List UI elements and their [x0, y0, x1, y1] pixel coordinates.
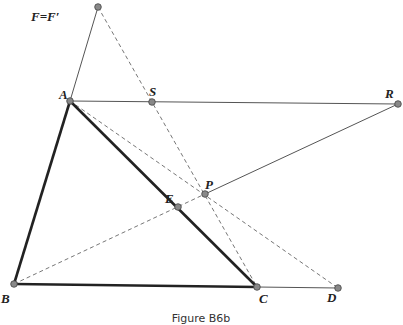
point-R	[395, 101, 402, 108]
point-A	[67, 98, 74, 105]
segment-FC-dashed	[98, 7, 257, 287]
point-C	[254, 284, 261, 291]
segment-AC-thick	[70, 101, 257, 287]
figure-caption: Figure B6b	[172, 312, 231, 325]
segment-AB-thick	[14, 101, 70, 284]
point-label-E: E	[164, 191, 174, 206]
point-label-C: C	[259, 291, 268, 306]
point-label-A: A	[58, 87, 68, 102]
geometry-figure: F=F′ASRPEBCDFigure B6b	[0, 0, 403, 325]
segment-FA-solid	[70, 7, 98, 101]
segment-CD-solid	[257, 287, 338, 288]
segment-AR-solid	[70, 101, 398, 104]
point-label-D: D	[326, 290, 337, 305]
point-label-S: S	[149, 84, 156, 99]
point-label-P: P	[205, 177, 214, 192]
segment-BC-thick	[14, 284, 257, 287]
point-label-R: R	[384, 86, 394, 101]
point-S	[149, 99, 156, 106]
point-label-F: F=F′	[30, 9, 60, 24]
point-F	[95, 4, 102, 11]
segment-PR-solid	[205, 104, 398, 194]
point-B	[11, 281, 18, 288]
point-label-B: B	[0, 291, 10, 306]
point-E	[175, 204, 182, 211]
